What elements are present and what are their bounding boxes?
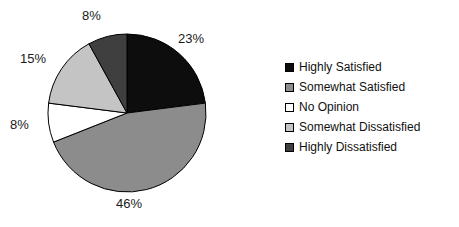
legend-item-label: Highly Dissatisfied	[299, 141, 397, 154]
legend-swatch-icon	[285, 63, 294, 72]
legend-item-label: Somewhat Satisfied	[299, 81, 405, 94]
legend-item-label: Somewhat Dissatisfied	[299, 121, 420, 134]
pie-plot-area: 23% 46% 8% 15% 8%	[0, 0, 270, 227]
legend-swatch-icon	[285, 83, 294, 92]
legend-item-highly-dissatisfied: Highly Dissatisfied	[285, 138, 455, 157]
pie-chart: 23% 46% 8% 15% 8% Highly Satisfied Somew…	[0, 0, 459, 227]
legend-swatch-icon	[285, 123, 294, 132]
legend-item-label: No Opinion	[299, 101, 359, 114]
pie-svg	[0, 0, 270, 227]
slice-label-somewhat-dissatisfied: 15%	[20, 51, 46, 66]
slice-label-highly-dissatisfied: 8%	[82, 8, 101, 23]
pie-slice-group	[48, 34, 206, 192]
legend-item-somewhat-satisfied: Somewhat Satisfied	[285, 78, 455, 97]
legend-item-somewhat-dissatisfied: Somewhat Dissatisfied	[285, 118, 455, 137]
legend-item-highly-satisfied: Highly Satisfied	[285, 58, 455, 77]
legend-item-no-opinion: No Opinion	[285, 98, 455, 117]
legend: Highly Satisfied Somewhat Satisfied No O…	[285, 58, 455, 158]
legend-item-label: Highly Satisfied	[299, 61, 382, 74]
slice-label-somewhat-satisfied: 46%	[116, 196, 142, 211]
legend-swatch-icon	[285, 103, 294, 112]
legend-swatch-icon	[285, 143, 294, 152]
slice-label-highly-satisfied: 23%	[178, 31, 204, 46]
slice-label-no-opinion: 8%	[10, 117, 29, 132]
